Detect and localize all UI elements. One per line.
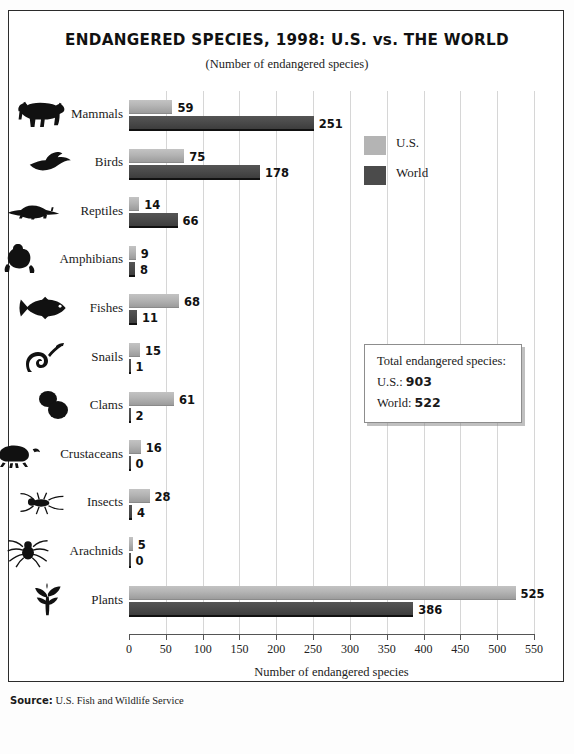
x-axis-tick-label: 550 bbox=[514, 642, 554, 657]
bar-value-us: 16 bbox=[146, 441, 162, 455]
totals-us-value: 903 bbox=[406, 374, 432, 389]
x-axis-line bbox=[129, 634, 534, 635]
x-axis-tick bbox=[497, 634, 498, 640]
legend-label-us: U.S. bbox=[396, 135, 419, 151]
bar-us bbox=[129, 100, 172, 114]
bar-value-us: 28 bbox=[155, 490, 171, 504]
bar-world bbox=[129, 456, 131, 471]
x-axis-tick bbox=[387, 634, 388, 640]
chart-legend: U.S. World bbox=[364, 133, 474, 193]
bar-value-world: 66 bbox=[183, 214, 199, 228]
bird-icon bbox=[26, 145, 82, 179]
bar-value-us: 14 bbox=[144, 198, 160, 212]
bar-world bbox=[129, 310, 137, 325]
crab-icon bbox=[0, 437, 42, 471]
legend-item-world: World bbox=[364, 163, 474, 193]
totals-heading: Total endangered species: bbox=[377, 354, 509, 369]
bar-value-world: 0 bbox=[136, 457, 144, 471]
bar-world bbox=[129, 116, 314, 131]
bar-world bbox=[129, 408, 131, 423]
x-axis-tick bbox=[350, 634, 351, 640]
insect-icon bbox=[13, 485, 69, 519]
x-axis-tick-label: 50 bbox=[146, 642, 186, 657]
bar-value-us: 75 bbox=[189, 150, 205, 164]
source-label: Source: bbox=[10, 695, 53, 706]
bar-us bbox=[129, 392, 174, 406]
bar-value-world: 4 bbox=[137, 506, 145, 520]
x-axis-tick-label: 450 bbox=[440, 642, 480, 657]
x-axis-tick-label: 400 bbox=[404, 642, 444, 657]
x-axis-tick-label: 100 bbox=[183, 642, 223, 657]
lizard-icon bbox=[6, 194, 62, 228]
legend-swatch-us-icon bbox=[364, 136, 386, 155]
bar-world bbox=[129, 553, 131, 568]
plant-icon bbox=[19, 583, 75, 617]
bar-value-us: 525 bbox=[521, 587, 545, 601]
x-axis-tick-label: 300 bbox=[330, 642, 370, 657]
bar-world bbox=[129, 262, 135, 277]
bar-world bbox=[129, 213, 178, 228]
x-axis-tick-label: 150 bbox=[219, 642, 259, 657]
x-axis-tick bbox=[460, 634, 461, 640]
bar-us bbox=[129, 440, 141, 454]
bar-value-us: 5 bbox=[138, 538, 146, 552]
bar-world bbox=[129, 359, 131, 374]
bar-world bbox=[129, 602, 413, 617]
source-value: U.S. Fish and Wildlife Service bbox=[55, 695, 183, 706]
totals-world-value: 522 bbox=[415, 395, 441, 410]
gridline bbox=[350, 91, 351, 634]
x-axis-tick bbox=[534, 634, 535, 640]
totals-box: Total endangered species: U.S.: 903 Worl… bbox=[364, 344, 522, 423]
bar-world bbox=[129, 165, 260, 180]
bar-value-world: 11 bbox=[142, 311, 158, 325]
bar-value-world: 386 bbox=[418, 603, 442, 617]
chart-title: ENDANGERED SPECIES, 1998: U.S. vs. THE W… bbox=[9, 31, 565, 49]
x-axis-tick-label: 250 bbox=[293, 642, 333, 657]
x-axis-tick-label: 200 bbox=[256, 642, 296, 657]
bar-us bbox=[129, 489, 150, 503]
bar-value-us: 59 bbox=[177, 101, 193, 115]
totals-us-prefix: U.S.: bbox=[377, 375, 406, 389]
legend-label-world: World bbox=[396, 165, 428, 181]
fish-icon bbox=[19, 291, 75, 325]
x-axis-tick bbox=[313, 634, 314, 640]
x-axis-tick bbox=[129, 634, 130, 640]
bar-value-world: 8 bbox=[140, 263, 148, 277]
x-axis-tick bbox=[203, 634, 204, 640]
x-axis-tick-label: 350 bbox=[367, 642, 407, 657]
gridline bbox=[534, 91, 535, 634]
bar-us bbox=[129, 149, 184, 163]
bar-value-world: 0 bbox=[136, 554, 144, 568]
legend-item-us: U.S. bbox=[364, 133, 474, 163]
x-axis-title: Number of endangered species bbox=[129, 665, 534, 680]
bar-value-us: 68 bbox=[184, 295, 200, 309]
bar-world bbox=[129, 505, 132, 520]
bar-us bbox=[129, 294, 179, 308]
bar-value-world: 178 bbox=[265, 166, 289, 180]
bar-value-world: 251 bbox=[319, 117, 343, 131]
x-axis-tick bbox=[239, 634, 240, 640]
bar-value-us: 15 bbox=[145, 344, 161, 358]
x-axis-tick bbox=[276, 634, 277, 640]
bar-us bbox=[129, 586, 516, 600]
cow-icon bbox=[13, 97, 69, 131]
chart-page: ENDANGERED SPECIES, 1998: U.S. vs. THE W… bbox=[0, 0, 574, 754]
bar-us bbox=[129, 343, 140, 357]
legend-swatch-world-icon bbox=[364, 166, 386, 185]
chart-frame: ENDANGERED SPECIES, 1998: U.S. vs. THE W… bbox=[8, 10, 564, 682]
bar-value-us: 9 bbox=[141, 247, 149, 261]
source-note: Source: U.S. Fish and Wildlife Service bbox=[10, 695, 184, 706]
bar-value-world: 1 bbox=[136, 360, 144, 374]
totals-world-prefix: World: bbox=[377, 396, 415, 410]
gridline bbox=[313, 91, 314, 634]
x-axis-tick-label: 500 bbox=[477, 642, 517, 657]
bar-us bbox=[129, 197, 139, 211]
spider-icon bbox=[0, 534, 56, 568]
bar-value-us: 61 bbox=[179, 393, 195, 407]
bar-us bbox=[129, 537, 133, 551]
totals-world: World: 522 bbox=[377, 395, 509, 411]
x-axis-tick-label: 0 bbox=[109, 642, 149, 657]
x-axis-tick bbox=[166, 634, 167, 640]
frog-icon bbox=[0, 242, 49, 276]
clam-icon bbox=[26, 388, 82, 422]
